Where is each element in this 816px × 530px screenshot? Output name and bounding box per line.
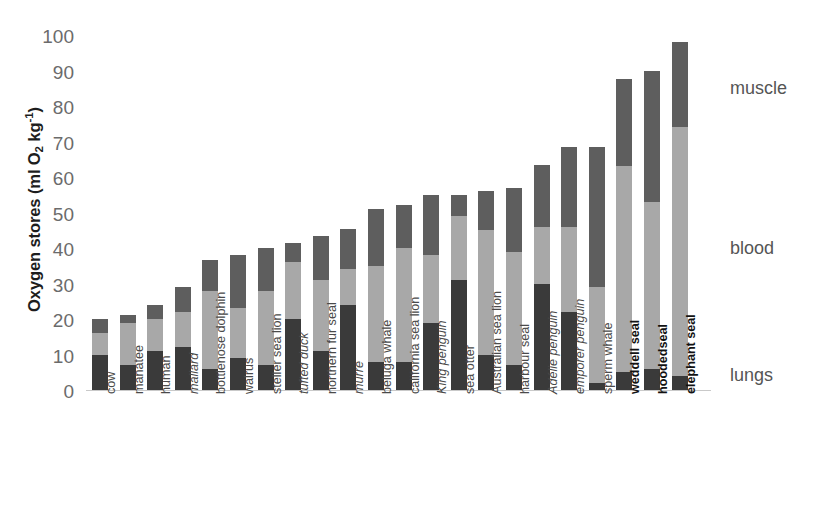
bar-segment-blood [423,255,439,322]
x-axis-baseline [86,390,711,391]
bar-segment-muscle [672,42,688,127]
legend-label-muscle: muscle [730,79,787,97]
bar-segment-muscle [423,195,439,255]
bar-segment-muscle [175,287,191,312]
bar-segment-muscle [616,79,632,166]
bar-segment-blood [175,312,191,348]
bar-segment-muscle [340,229,356,270]
x-axis-label-steller-sea-lion: steller sea lion [271,313,284,394]
bar-segment-blood [230,308,246,358]
bar-segment-muscle [644,71,660,202]
x-axis-label-murre: murre [353,361,366,394]
x-axis-label-sea-otter: sea otter [464,345,477,394]
bar-segment-muscle [202,260,218,290]
x-axis-label-northern-fur-seal: northern fur seal [326,302,339,394]
bar-segment-muscle [120,315,136,322]
bar-segment-blood [451,216,467,280]
bar-segment-muscle [396,205,412,248]
x-axis-label-human: human [160,355,173,394]
y-axis-tick-40: 40 [28,240,74,259]
x-axis-label-harbour-seal: harbour seal [519,324,532,394]
bar-segment-blood [147,319,163,351]
y-axis-tick-50: 50 [28,205,74,224]
y-axis-tick-90: 90 [28,63,74,82]
x-axis-label-manatee: manatee [133,345,146,394]
bar-segment-muscle [313,236,329,280]
plot-area [86,20,711,391]
bar-segment-muscle [147,305,163,319]
legend-label-lungs: lungs [730,366,773,384]
y-axis-tick-70: 70 [28,134,74,153]
y-axis-tick-20: 20 [28,311,74,330]
y-axis-tick-100: 100 [28,27,74,46]
y-axis-tick-80: 80 [28,98,74,117]
x-axis-label-california-sea-lion: california sea lion [409,297,422,394]
bar-segment-muscle [506,188,522,252]
bar-segment-muscle [534,165,550,227]
bar-segment-muscle [285,243,301,263]
y-axis-tick-10: 10 [28,347,74,366]
bar-segment-blood [340,269,356,305]
bar-segment-blood [285,262,301,319]
bar-segment-muscle [368,209,384,266]
legend-label-blood: blood [730,239,774,257]
x-axis-label-tufted-duck: tufted duck [298,332,311,394]
x-axis-label-hoodedseal: hoodedseal [657,324,670,394]
x-axis-label-australian-sea-lion: Australian sea lion [491,291,504,394]
x-axis-label-beluga-whale: beluga whale [381,320,394,394]
bar-segment-muscle [589,147,605,287]
bar-segment-muscle [230,255,246,308]
x-axis-label-emporer-penguin: emporer penguin [574,299,587,394]
bar-segment-muscle [451,195,467,216]
bar-segment-blood [92,333,108,354]
y-axis-tick-0: 0 [28,382,74,401]
x-axis-label-walrus: walrus [243,358,256,394]
x-axis-label-ad-lie-penguin: Adélie penguin [547,311,560,394]
x-axis-label-sperm-whale: sperm whale [602,323,615,394]
oxygen-stores-chart: Oxygen stores (ml O2 kg-1) 0102030405060… [0,0,816,530]
x-axis-label-cow: cow [105,372,118,394]
bar-segment-muscle [258,248,274,291]
x-axis-label-elephant-seal: elephant seal [685,314,698,394]
x-axis-label-weddell-seal: weddell seal [629,320,642,394]
bar-segment-blood [534,227,550,284]
x-axis-label-king-penguin: King penguin [436,320,449,394]
y-axis-tick-30: 30 [28,276,74,295]
x-axis-tick-labels: cowmanateehumanmallardbottlenose dolphin… [86,394,711,530]
x-axis-label-bottlenose-dolphin: bottlenose dolphin [215,292,228,394]
bar-segment-muscle [478,191,494,230]
x-axis-label-mallard: mallard [188,353,201,394]
y-axis-tick-60: 60 [28,169,74,188]
y-axis-tick-labels: 0102030405060708090100 [14,0,74,530]
bar-segment-muscle [561,147,577,227]
bar-segment-muscle [92,319,108,333]
